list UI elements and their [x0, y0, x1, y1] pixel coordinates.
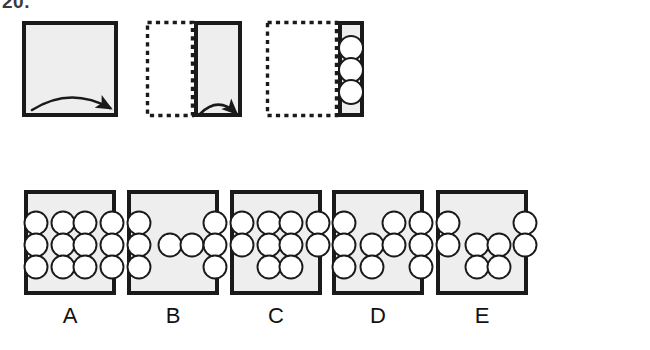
option-d-hole-4	[361, 234, 384, 257]
figure-svg	[0, 0, 650, 350]
option-c-hole-5	[258, 256, 281, 279]
fold-step-1	[24, 23, 116, 115]
option-c-label[interactable]: C	[256, 305, 296, 327]
option-b-hole-1	[128, 212, 151, 235]
option-d-hole-10	[410, 256, 433, 279]
option-d-hole-9	[410, 234, 433, 257]
option-d-hole-7	[383, 234, 406, 257]
option-a-hole-12	[101, 256, 124, 279]
option-b-hole-4	[159, 234, 182, 257]
option-a-hole-7	[74, 212, 97, 235]
punched-hole-3-1	[339, 36, 363, 60]
test-item-canvas: 20. ABCDE	[0, 0, 650, 350]
option-e-hole-2	[437, 234, 460, 257]
punched-hole-3-2	[339, 58, 363, 82]
option-a-hole-9	[74, 256, 97, 279]
answer-options-row	[25, 192, 537, 293]
option-e-hole-8	[514, 234, 537, 257]
option-d-hole-8	[410, 212, 433, 235]
option-e-hole-5	[488, 234, 511, 257]
option-e[interactable]	[437, 192, 537, 293]
option-d-hole-3	[333, 256, 356, 279]
option-a-label[interactable]: A	[50, 305, 90, 327]
option-e-hole-7	[514, 212, 537, 235]
option-c-hole-9	[307, 212, 330, 235]
option-b-hole-7	[204, 234, 227, 257]
option-c[interactable]	[231, 192, 330, 293]
option-d[interactable]	[333, 192, 433, 293]
option-d-hole-2	[333, 234, 356, 257]
option-a-hole-5	[52, 234, 75, 257]
option-e-hole-4	[466, 256, 489, 279]
option-a[interactable]	[25, 192, 124, 293]
option-b-hole-2	[128, 234, 151, 257]
fold-step-2	[148, 23, 241, 116]
option-c-hole-10	[307, 234, 330, 257]
option-b-label[interactable]: B	[153, 305, 193, 327]
ghost-outline-2	[148, 23, 193, 116]
option-a-hole-11	[101, 234, 124, 257]
option-a-hole-8	[74, 234, 97, 257]
option-d-hole-6	[383, 212, 406, 235]
option-d-label[interactable]: D	[358, 305, 398, 327]
option-e-hole-1	[437, 212, 460, 235]
option-d-hole-5	[361, 256, 384, 279]
option-c-hole-2	[231, 234, 254, 257]
option-c-hole-3	[258, 212, 281, 235]
option-b-hole-3	[128, 256, 151, 279]
option-b[interactable]	[128, 192, 227, 293]
fold-sequence-row	[24, 23, 363, 116]
fold-step-3	[268, 23, 364, 116]
option-c-hole-6	[280, 212, 303, 235]
option-a-hole-1	[25, 212, 48, 235]
paper-rect-1	[24, 23, 116, 115]
option-b-hole-6	[204, 212, 227, 235]
option-d-hole-1	[333, 212, 356, 235]
option-c-hole-7	[280, 234, 303, 257]
option-a-hole-2	[25, 234, 48, 257]
option-a-hole-4	[52, 212, 75, 235]
option-c-hole-8	[280, 256, 303, 279]
option-c-hole-4	[258, 234, 281, 257]
ghost-outline-3	[268, 23, 337, 116]
option-b-hole-5	[181, 234, 204, 257]
option-c-hole-1	[231, 212, 254, 235]
option-e-label[interactable]: E	[462, 305, 502, 327]
option-e-hole-6	[488, 256, 511, 279]
option-e-hole-3	[466, 234, 489, 257]
option-a-hole-10	[101, 212, 124, 235]
option-a-hole-3	[25, 256, 48, 279]
punched-hole-3-3	[339, 80, 363, 104]
paper-rect-2	[196, 23, 240, 115]
option-b-hole-8	[204, 256, 227, 279]
option-a-hole-6	[52, 256, 75, 279]
